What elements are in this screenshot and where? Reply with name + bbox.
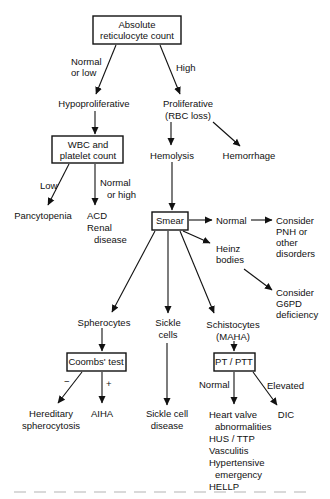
edge-pt-elevated: Elevated <box>267 380 304 391</box>
pt-ptt-label: PT / PTT <box>215 356 253 367</box>
wbc-label-line2: platelet count <box>60 150 117 161</box>
pnh-label-line2: PNH or <box>276 226 307 237</box>
spherocytes-label: Spherocytes <box>78 317 131 328</box>
edge-coombs-negative: − <box>64 376 70 387</box>
maha-cause-1b: abnormalities <box>215 421 272 432</box>
smear-normal-label: Normal <box>216 215 247 226</box>
hemorrhage-label: Hemorrhage <box>223 150 276 161</box>
acd-label-line2: Renal <box>87 222 112 233</box>
schistocytes-label-line1: Schistocytes <box>206 319 260 330</box>
edge-low: Low <box>40 180 58 191</box>
edge-normal-or-low-line2: or low <box>71 67 96 78</box>
pancytopenia-label: Pancytopenia <box>14 210 72 221</box>
g6pd-label-line2: G6PD <box>276 298 302 309</box>
maha-cause-3: Vasculitis <box>209 445 249 456</box>
root-label-line2: reticulocyte count <box>100 30 174 41</box>
edge-coombs-positive: + <box>106 378 112 389</box>
aiha-label: AIHA <box>91 408 114 419</box>
hypoproliferative-label: Hypoproliferative <box>58 98 129 109</box>
g6pd-label-line1: Consider <box>276 287 314 298</box>
hemolysis-label: Hemolysis <box>150 150 194 161</box>
wbc-label-line1: WBC and <box>68 139 109 150</box>
reticulocyte-flowchart: Absolute reticulocyte count Hypoprolifer… <box>0 0 330 499</box>
acd-label-line3: disease <box>94 234 127 245</box>
hereditary-label-line1: Hereditary <box>29 408 73 419</box>
heinz-label-line2: bodies <box>216 254 244 265</box>
edge-normal-or-high-line1: Normal <box>100 177 131 188</box>
coombs-label: Coombs' test <box>68 356 124 367</box>
maha-cause-4b: emergency <box>215 469 262 480</box>
heinz-label-line1: Heinz <box>216 243 241 254</box>
smear-label: Smear <box>156 215 184 226</box>
sickle-cells-label-line1: Sickle <box>155 317 180 328</box>
sickle-cell-disease-line2: disease <box>151 420 184 431</box>
schistocytes-label-line2: (MAHA) <box>216 331 250 342</box>
proliferative-label-line1: Proliferative <box>163 98 213 109</box>
edge-normal-or-low-line1: Normal <box>71 56 102 67</box>
sickle-cell-disease-line1: Sickle cell <box>146 408 188 419</box>
g6pd-label-line3: deficiency <box>276 309 318 320</box>
pnh-label-line1: Consider <box>276 215 314 226</box>
edge-pt-normal: Normal <box>199 379 230 390</box>
proliferative-label-line2: (RBC loss) <box>165 110 211 121</box>
hereditary-label-line2: spherocytosis <box>22 420 80 431</box>
pnh-label-line4: disorders <box>276 248 315 259</box>
edge-normal-or-high-line2: or high <box>107 189 136 200</box>
dic-label: DIC <box>278 409 295 420</box>
maha-cause-1: Heart valve <box>209 409 257 420</box>
maha-cause-2: HUS / TTP <box>209 433 255 444</box>
sickle-cells-label-line2: cells <box>158 329 177 340</box>
figure-caption-faded <box>14 491 314 493</box>
root-label-line1: Absolute <box>119 19 156 30</box>
acd-label-line1: ACD <box>87 210 107 221</box>
maha-cause-4: Hypertensive <box>209 457 264 468</box>
pnh-label-line3: other <box>276 237 298 248</box>
edge-high: High <box>176 62 196 73</box>
